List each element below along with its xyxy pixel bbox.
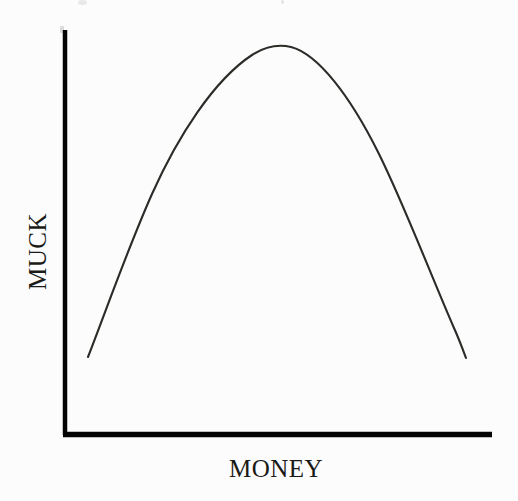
x-axis-title: MONEY bbox=[229, 455, 323, 483]
y-axis-title: MUCK bbox=[24, 213, 52, 290]
plot-area bbox=[0, 0, 518, 501]
chart-figure: MUCK MONEY bbox=[0, 0, 518, 501]
data-curve-muck bbox=[88, 46, 466, 358]
